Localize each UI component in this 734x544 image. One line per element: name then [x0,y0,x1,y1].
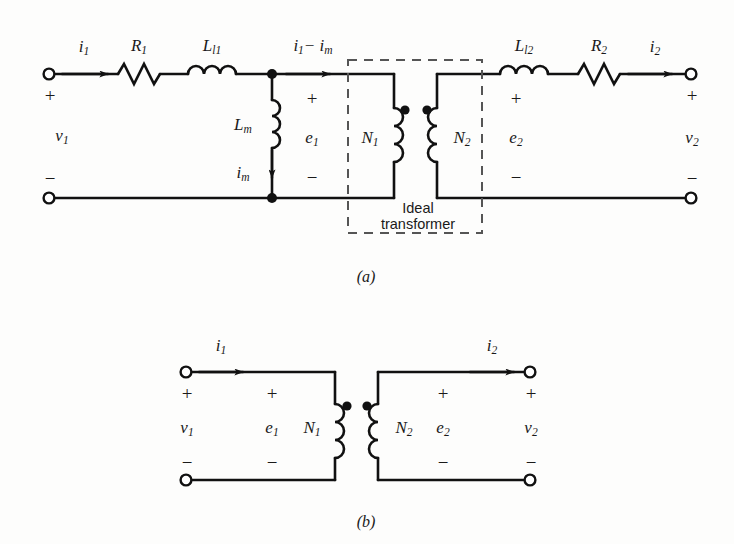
label-Ll1: Ll1 [203,37,221,57]
label-b-minus-left-inner: − [267,453,278,472]
label-R1: R1 [131,37,147,57]
label-i2-a: i2 [650,38,660,58]
label-im: im [236,164,249,184]
terminal-b-secondary-top [525,367,536,378]
resistor-R1-element [118,64,160,84]
label-Ll2: Ll2 [515,37,533,57]
terminal-primary-top [44,69,55,80]
label-b-plus-left-inner: + [267,384,278,403]
label-i1-a: i1 [79,38,89,58]
label-i2-b: i2 [487,337,497,357]
label-e1-b: e1 [265,419,278,439]
inductor-Ll1-element [188,66,236,74]
node-dot-top [267,69,277,79]
label-e2-b: e2 [436,419,449,439]
label-minus-primary-terminal: − [45,169,56,188]
label-b-plus-right-outer: + [526,384,537,403]
caption-b: (b) [357,514,376,530]
label-minus-e2: − [511,168,522,187]
caption-a: (a) [357,269,376,285]
diagram-b-wires [191,372,525,480]
coil-b-N1 [335,404,344,458]
label-R2: R2 [591,37,607,57]
polarity-dot-b-secondary [362,401,371,410]
label-N1-a: N1 [361,129,378,149]
terminal-b-secondary-bottom [525,475,536,486]
terminal-primary-bottom [44,193,55,204]
polarity-dot-secondary [422,105,431,114]
inductor-Ll2-element [500,66,548,74]
label-i1-b: i1 [216,337,226,357]
polarity-dot-b-primary [342,401,351,410]
polarity-dot-primary [400,105,409,114]
diagram-a-polarity-dots [400,105,431,114]
label-plus-e1: + [307,89,318,108]
terminal-secondary-bottom [686,193,697,204]
label-N2-a: N2 [453,129,470,149]
label-v1-a: v1 [55,127,68,147]
terminal-b-primary-bottom [181,475,192,486]
terminal-secondary-top [686,69,697,80]
label-i1-minus-im: i1− im [293,37,332,57]
coil-N2-a [428,108,437,162]
label-plus-e2: + [511,89,522,108]
label-b-plus-right-inner: + [438,384,449,403]
node-dot-bottom [267,193,277,203]
resistor-R2-element [578,64,620,84]
label-minus-e1: − [307,168,318,187]
coil-N1-a [394,108,403,162]
label-plus-secondary-terminal: + [687,86,698,105]
label-N2-b: N2 [395,419,412,439]
label-v1-b: v1 [180,419,193,439]
diagram-b-terminals [181,367,536,486]
label-plus-primary-terminal: + [45,86,56,105]
label-N1-b: N1 [303,419,320,439]
inductor-Lm-element [272,100,280,148]
diagram-b-polarity-dots [342,401,371,410]
label-e1-a: e1 [305,129,318,149]
label-minus-secondary-terminal: − [687,169,698,188]
label-b-plus-left-outer: + [182,384,193,403]
label-b-minus-right-outer: − [526,453,537,472]
terminal-b-primary-top [181,367,192,378]
label-v2-a: v2 [685,129,698,149]
label-Lm: Lm [234,116,252,136]
figure-root: i1 R1 Ll1 i1− im + − v1 Lm im + e1 − N1 … [0,0,734,544]
label-b-minus-right-inner: − [438,453,449,472]
coil-b-N2 [369,404,378,458]
label-b-minus-left-outer: − [182,453,193,472]
label-e2-a: e2 [509,129,522,149]
label-v2-b: v2 [524,419,537,439]
ideal-transformer-box-label: Idealtransformer [381,200,455,232]
